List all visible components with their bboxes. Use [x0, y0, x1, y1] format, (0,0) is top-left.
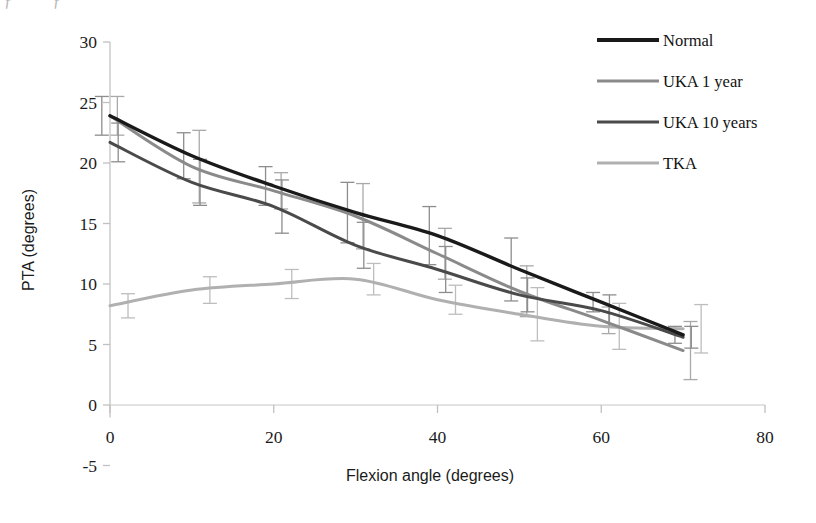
x-tick-group: 020406080 — [106, 405, 774, 447]
series-line-normal — [110, 116, 683, 335]
series-line-tka — [110, 278, 683, 328]
series-line-uka-10-years — [110, 142, 683, 337]
truncated-caption-above: ƒ ƒ — [4, 0, 79, 11]
series-line-uka-1-year — [110, 116, 683, 351]
legend-item-uka-1-year[interactable]: UKA 1 year — [597, 72, 743, 91]
x-tick-label: 60 — [593, 427, 611, 447]
axes-group — [110, 42, 765, 418]
x-tick-label: 20 — [265, 427, 283, 447]
legend-label: TKA — [663, 154, 697, 173]
legend-group: NormalUKA 1 yearUKA 10 yearsTKA — [597, 31, 757, 173]
legend-item-uka-10-years[interactable]: UKA 10 years — [597, 113, 757, 132]
y-axis-title: PTA (degrees) — [20, 189, 37, 291]
y-tick-label: 5 — [88, 335, 97, 355]
x-tick-label: 40 — [429, 427, 447, 447]
y-tick-label: 15 — [80, 214, 98, 234]
series-lines-group — [110, 116, 683, 351]
y-tick-label: 10 — [80, 274, 98, 294]
legend-label: UKA 1 year — [663, 72, 743, 91]
y-tick-label: 20 — [80, 153, 98, 173]
legend-item-normal[interactable]: Normal — [597, 31, 714, 50]
y-tick-label: 30 — [80, 32, 98, 52]
ptapl-line-chart: -5051015202530 020406080 NormalUKA 1 yea… — [0, 0, 816, 523]
legend-label: UKA 10 years — [663, 113, 757, 132]
x-tick-label: 0 — [106, 427, 115, 447]
legend-label: Normal — [663, 31, 714, 50]
legend-item-tka[interactable]: TKA — [597, 154, 697, 173]
y-tick-label: -5 — [82, 456, 97, 476]
chart-figure: ƒ ƒ -5051015202530 020406080 NormalUKA 1… — [0, 0, 816, 523]
y-tick-label: 25 — [80, 93, 98, 113]
y-tick-group: -5051015202530 — [80, 32, 111, 476]
x-tick-label: 80 — [756, 427, 774, 447]
x-axis-title: Flexion angle (degrees) — [346, 467, 514, 484]
y-tick-label: 0 — [88, 395, 97, 415]
